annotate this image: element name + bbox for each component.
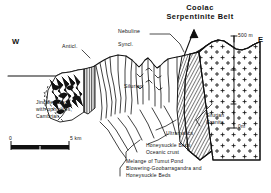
legend-melange-line-3: Honeysuckle Beds — [126, 173, 171, 179]
anticline-label: Anticl. — [62, 44, 78, 50]
compass-west-label: W — [12, 38, 19, 47]
legend-granite-line-1: Silurian — [206, 113, 224, 119]
silurian-label: Silurian — [124, 84, 143, 90]
syncline-label: Syncl. — [118, 42, 133, 48]
legend-honeysuckle-line-2: Oceanic crust — [146, 150, 179, 156]
figure-title-line2: Serpentinite Belt — [150, 13, 250, 21]
geological-cross-section-figure: Coolac Serpentinite Belt W E Anticl. Syn… — [0, 0, 271, 193]
horizontal-scale-bar — [11, 141, 69, 152]
legend-left-line-3: Cambrian — [36, 114, 59, 120]
legend-left-line-2: with ophiolites, — [36, 107, 72, 113]
horizontal-scale-start-label: 0 — [9, 136, 12, 142]
nebuline-label: Nebuline — [118, 29, 140, 35]
legend-melange-line-1: Melange of Tumut Pond — [126, 159, 183, 165]
legend-honeysuckle-line-1: Honeysuckle Beds — [146, 143, 191, 149]
vertical-scale-top-label: 500 m — [238, 33, 253, 39]
compass-east-label: E — [258, 36, 263, 45]
legend-left-line-1: Jindalee Beds — [36, 100, 70, 106]
horizontal-scale-end-label: 5 km — [70, 136, 82, 142]
vertical-scale-bottom-label: 0m — [238, 124, 245, 130]
legend-ultramafics-label: Ultramafics — [166, 131, 193, 137]
legend-granite-line-2: Granite — [206, 120, 224, 126]
ruled-fault-band-west — [84, 66, 95, 114]
legend-melange-line-2: Blowering-Goobarragandra and — [126, 166, 202, 172]
